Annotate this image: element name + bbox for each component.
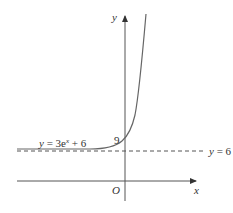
curve-equation-label: y = 3ex + 6 xyxy=(38,137,87,149)
y-intercept-label: 9 xyxy=(114,134,120,146)
origin-label: O xyxy=(112,184,120,196)
x-axis-label: x xyxy=(193,184,199,196)
asymptote-label: y = 6 xyxy=(208,145,232,157)
curve-eq-mid: = 3e xyxy=(44,137,66,149)
y-axis-label: y xyxy=(111,11,117,23)
graph-canvas: y x O 9 y = 3ex + 6 y = 6 xyxy=(0,0,233,213)
exponential-curve xyxy=(17,14,146,149)
curve-eq-tail: + 6 xyxy=(69,137,87,149)
